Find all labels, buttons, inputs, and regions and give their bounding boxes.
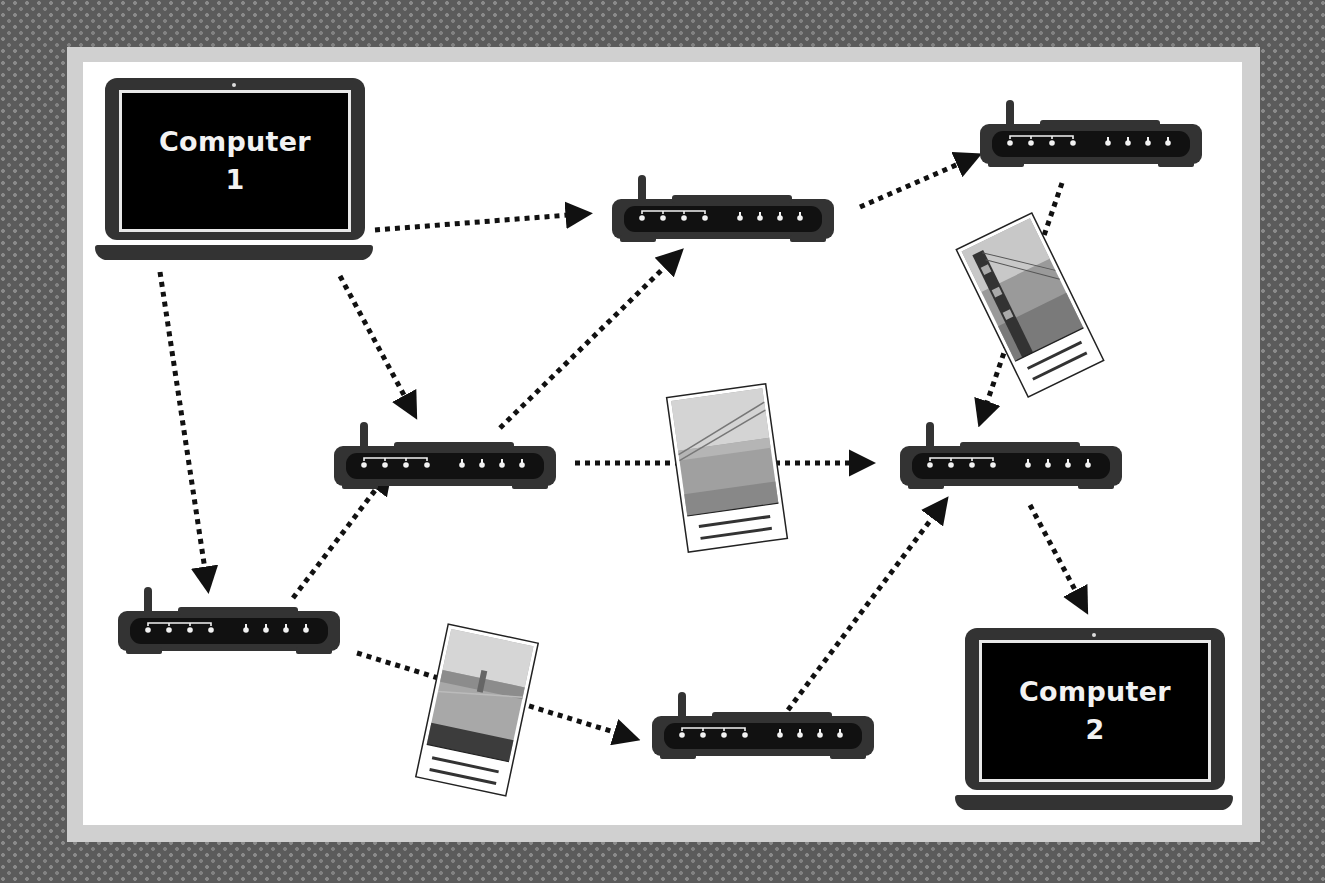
- router-f-icon: [652, 692, 874, 759]
- arrow-router-d-to-computer-2: [1030, 505, 1083, 605]
- arrow-c1-to-router-a: [375, 214, 582, 230]
- router-d-icon: [900, 422, 1122, 489]
- computer-2-screen: Computer 2: [979, 640, 1211, 782]
- router-a-icon: [612, 175, 834, 242]
- computer-1-laptop: Computer 1: [95, 78, 373, 260]
- camera-dot: [1092, 633, 1096, 637]
- computer-1-label: Computer: [159, 123, 311, 161]
- laptop-base: [955, 795, 1233, 810]
- arrow-c1-to-router-c: [340, 276, 412, 410]
- computer-2-label: Computer: [1019, 673, 1171, 711]
- computer-2-number: 2: [1086, 711, 1105, 749]
- arrow-c1-to-router-e: [160, 272, 207, 583]
- arrow-router-a-to-router-b: [860, 158, 972, 207]
- router-c-icon: [334, 422, 556, 489]
- router-b-icon: [980, 100, 1202, 167]
- arrow-router-e-to-router-c: [293, 476, 386, 598]
- packet-2-photo-icon: [667, 384, 788, 552]
- computer-1-number: 1: [226, 161, 245, 199]
- arrow-router-f-to-router-d: [788, 505, 942, 710]
- arrow-router-c-to-router-a: [500, 256, 676, 428]
- computer-1-screen: Computer 1: [119, 90, 351, 232]
- packet-1-photo-icon: [956, 213, 1103, 397]
- router-e-icon: [118, 587, 340, 654]
- laptop-base: [95, 245, 373, 260]
- camera-dot: [232, 83, 236, 87]
- packet-3-photo-icon: [416, 624, 538, 796]
- computer-2-laptop: Computer 2: [955, 628, 1233, 810]
